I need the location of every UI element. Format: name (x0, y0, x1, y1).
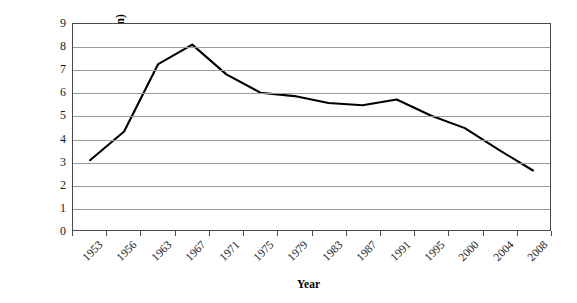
x-tick-mark (243, 231, 244, 236)
y-tick-label: 8 (42, 40, 66, 52)
x-tick-label: 2008 (526, 239, 550, 263)
y-tick-label: 7 (42, 63, 66, 75)
y-tick-label: 9 (42, 17, 66, 29)
gridline (73, 47, 550, 48)
x-tick-mark (414, 231, 415, 236)
y-tick-label: 6 (42, 86, 66, 98)
x-tick-mark (277, 231, 278, 236)
y-axis-tick-labels: 0123456789 (42, 23, 66, 231)
x-tick-label: 1967 (183, 239, 207, 263)
x-tick-mark (106, 231, 107, 236)
x-tick-label: 2004 (491, 239, 515, 263)
line-chart: Number of members (million) 0123456789 1… (0, 0, 577, 303)
x-tick-label: 1971 (218, 239, 242, 263)
x-tick-label: 1979 (286, 239, 310, 263)
x-tick-mark (551, 231, 552, 236)
x-tick-mark (312, 231, 313, 236)
x-tick-mark (175, 231, 176, 236)
x-tick-label: 1975 (252, 239, 276, 263)
x-tick-label: 1987 (355, 239, 379, 263)
x-tick-mark (380, 231, 381, 236)
plot-area (72, 23, 551, 231)
gridline (73, 140, 550, 141)
y-tick-label: 0 (42, 225, 66, 237)
x-tick-mark (483, 231, 484, 236)
x-tick-mark (448, 231, 449, 236)
y-tick-label: 3 (42, 156, 66, 168)
gridline (73, 93, 550, 94)
x-tick-mark (72, 231, 73, 236)
x-tick-label: 1956 (115, 239, 139, 263)
x-axis-title: Year (0, 278, 577, 290)
x-tick-label: 1953 (81, 239, 105, 263)
y-tick-label: 5 (42, 109, 66, 121)
y-tick-label: 4 (42, 133, 66, 145)
x-tick-mark (346, 231, 347, 236)
x-tick-label: 1983 (320, 239, 344, 263)
x-tick-label: 1995 (423, 239, 447, 263)
gridline (73, 70, 550, 71)
y-tick-label: 2 (42, 179, 66, 191)
x-tick-label: 2000 (457, 239, 481, 263)
data-series-line (73, 24, 550, 230)
x-tick-mark (517, 231, 518, 236)
x-tick-mark (140, 231, 141, 236)
y-tick-label: 1 (42, 202, 66, 214)
x-tick-label: 1963 (149, 239, 173, 263)
x-tick-mark (209, 231, 210, 236)
gridline (73, 186, 550, 187)
gridline (73, 209, 550, 210)
gridline (73, 163, 550, 164)
x-tick-label: 1991 (389, 239, 413, 263)
gridline (73, 116, 550, 117)
